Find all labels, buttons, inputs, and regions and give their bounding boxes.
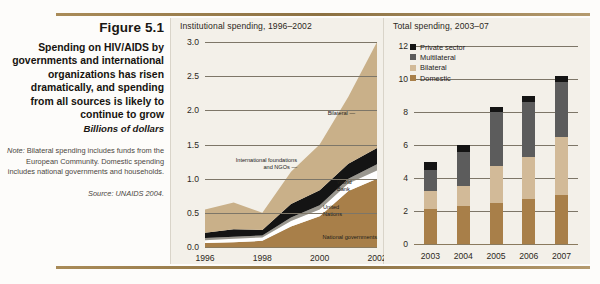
figure-note: Note: Bilateral spending includes funds … — [6, 146, 164, 177]
series-annotation: National governments — [291, 234, 377, 241]
bar-segment-private — [522, 96, 535, 103]
bar-segment-private — [490, 107, 503, 112]
x-axis-tick: 2000 — [302, 253, 338, 263]
x-axis-tick: 2007 — [544, 251, 580, 261]
bar-column[interactable] — [490, 46, 503, 244]
y-axis-tick: 2.5 — [175, 71, 199, 81]
legend-swatch-private-icon — [410, 44, 416, 50]
bar-segment-bilateral — [490, 166, 503, 202]
bottom-rule — [56, 266, 590, 269]
gridline — [205, 145, 377, 146]
y-axis-tick: 10 — [388, 74, 408, 84]
legend-item-private[interactable]: Private sector — [410, 43, 465, 51]
total-spending-chart: Total spending, 2003–07 024681012 200320… — [384, 18, 590, 264]
x-axis-tick: 1996 — [187, 253, 223, 263]
legend-item-bilateral[interactable]: Bilateral — [410, 64, 465, 72]
legend-swatch-bilateral-icon — [410, 65, 416, 71]
bar-segment-multilateral — [522, 102, 535, 156]
bar-segment-domestic — [490, 203, 503, 244]
figure-title: Spending on HIV/AIDS by governments and … — [6, 41, 164, 121]
legend-item-domestic[interactable]: Domestic — [410, 74, 465, 82]
y-axis-tick: 1.5 — [175, 140, 199, 150]
figure-source: Source: UNAIDS 2004. — [6, 189, 164, 198]
y-axis-tick: 0 — [388, 239, 408, 249]
series-annotation: Bilateral — — [299, 110, 355, 117]
bar-segment-multilateral — [457, 152, 470, 187]
bar-segment-domestic — [555, 195, 568, 245]
bar-segment-private — [457, 145, 470, 152]
top-rule — [56, 13, 590, 16]
bar-column[interactable] — [555, 46, 568, 244]
x-axis-tick: 1998 — [244, 253, 280, 263]
y-axis-tick: 0.0 — [175, 242, 199, 252]
bar-segment-domestic — [522, 199, 535, 244]
institutional-spending-chart: Institutional spending, 1996–2002 0.00.5… — [171, 18, 383, 264]
y-axis-tick: 4 — [388, 173, 408, 183]
legend-swatch-domestic-icon — [410, 75, 416, 81]
gridline — [414, 244, 578, 245]
bar-column[interactable] — [522, 46, 535, 244]
y-axis-tick: 0.5 — [175, 208, 199, 218]
bar-segment-multilateral — [424, 170, 437, 191]
bar-segment-bilateral — [457, 186, 470, 206]
series-annotation: United Nations — [323, 204, 353, 217]
gridline — [205, 42, 377, 43]
legend-label-domestic: Domestic — [420, 74, 451, 83]
legend-label-bilateral: Bilateral — [420, 63, 447, 72]
figure-units: Billions of dollars — [6, 123, 164, 134]
y-axis-tick: 1.0 — [175, 174, 199, 184]
x-axis-tick: 2005 — [478, 251, 514, 261]
series-annotation: World Bank — [337, 179, 363, 192]
y-axis-tick: 6 — [388, 140, 408, 150]
y-axis-tick: 3.0 — [175, 37, 199, 47]
gridline — [205, 247, 377, 248]
y-axis-tick: 2.0 — [175, 105, 199, 115]
bar-legend: Private sector Multilateral Bilateral Do… — [410, 43, 465, 85]
bar-segment-multilateral — [490, 112, 503, 166]
y-axis-tick: 12 — [388, 41, 408, 51]
x-axis-tick: 2003 — [412, 251, 448, 261]
bar-segment-bilateral — [522, 157, 535, 200]
bar-segment-bilateral — [555, 137, 568, 195]
chart-title-total: Total spending, 2003–07 — [393, 21, 489, 31]
bar-segment-domestic — [457, 206, 470, 244]
figure-container: Figure 5.1 Spending on HIV/AIDS by gover… — [0, 0, 600, 284]
chart-title-institutional: Institutional spending, 1996–2002 — [180, 21, 312, 31]
legend-label-multilateral: Multilateral — [420, 53, 456, 62]
note-text: Bilateral spending includes funds from t… — [8, 146, 164, 176]
x-axis-tick: 2004 — [445, 251, 481, 261]
legend-label-private: Private sector — [420, 43, 465, 52]
bar-segment-multilateral — [555, 82, 568, 136]
figure-number: Figure 5.1 — [6, 20, 164, 35]
note-label: Note: — [7, 146, 25, 155]
bar-segment-domestic — [424, 209, 437, 244]
bar-segment-bilateral — [424, 191, 437, 209]
legend-swatch-multilateral-icon — [410, 54, 416, 60]
gridline — [205, 76, 377, 77]
legend-item-multilateral[interactable]: Multilateral — [410, 53, 465, 61]
series-annotation: International foundations and NGOs — — [227, 157, 297, 170]
caption-block: Figure 5.1 Spending on HIV/AIDS by gover… — [6, 20, 164, 198]
y-axis-tick: 8 — [388, 107, 408, 117]
y-axis-tick: 2 — [388, 206, 408, 216]
x-axis-tick: 2006 — [511, 251, 547, 261]
bar-segment-private — [555, 76, 568, 83]
bar-segment-private — [424, 162, 437, 170]
